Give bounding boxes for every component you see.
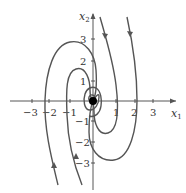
y-tick-label: 1 xyxy=(80,76,86,87)
direction-arrow-icon xyxy=(127,31,133,37)
x-tick-label: −2 xyxy=(42,107,57,118)
y-tick-labels: 3 2 1 −1 −2 −3 xyxy=(75,34,90,169)
y-axis-arrow-icon xyxy=(91,13,96,19)
y-tick-label: −1 xyxy=(75,116,90,127)
direction-arrow-icon xyxy=(51,162,57,168)
svg-text:x1: x1 xyxy=(171,107,182,121)
phase-portrait: −3 −2 −1 1 2 3 3 2 1 −1 −2 −3 x1 x2 xyxy=(0,0,186,193)
y-tick-label: −2 xyxy=(75,137,90,148)
y-tick-label: 2 xyxy=(80,56,86,67)
y-axis-label: x2 xyxy=(79,10,90,24)
phase-portrait-svg: −3 −2 −1 1 2 3 3 2 1 −1 −2 −3 x1 x2 xyxy=(0,0,186,193)
direction-arrow-icon xyxy=(102,33,108,39)
x-tick-label: 1 xyxy=(113,107,119,118)
x-tick-label: 3 xyxy=(150,107,156,118)
equilibrium-point xyxy=(89,97,97,105)
direction-arrow-icon xyxy=(73,153,79,159)
x-axis-label: x1 xyxy=(171,107,182,121)
y-tick-label: −3 xyxy=(75,158,90,169)
svg-text:x2: x2 xyxy=(79,10,90,24)
x-tick-label: −3 xyxy=(23,107,38,118)
x-axis-arrow-icon xyxy=(170,99,176,104)
